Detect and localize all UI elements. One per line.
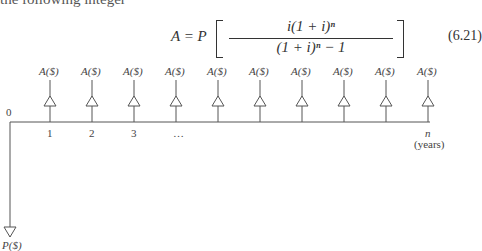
payment-label: A($) [38,65,59,78]
origin-label: 0 [6,106,12,118]
period-label: … [173,127,184,139]
payment-arrow-head-icon [254,96,266,106]
payment-arrow-head-icon [422,96,434,106]
payment-arrow-head-icon [212,96,224,106]
payment-label: A($) [374,65,395,78]
payment-label: A($) [416,65,437,78]
payment-label: A($) [206,65,227,78]
payment-arrow-head-icon [44,96,56,106]
principal-label: P($) [1,239,22,251]
period-label: 2 [89,127,95,139]
payment-arrow-head-icon [296,96,308,106]
payment-label: A($) [164,65,185,78]
payment-arrow-head-icon [128,96,140,106]
payment-arrow-head-icon [380,96,392,106]
payment-arrow-head-icon [86,96,98,106]
payment-label: A($) [122,65,143,78]
payment-label: A($) [290,65,311,78]
years-label: (years) [414,138,445,151]
principal-arrow-head-icon [4,227,16,237]
payment-arrow-head-icon [170,96,182,106]
period-label: 1 [47,127,53,139]
period-label: 3 [131,127,137,139]
payment-arrow-head-icon [338,96,350,106]
payment-label: A($) [80,65,101,78]
payment-label: A($) [332,65,353,78]
payment-label: A($) [248,65,269,78]
